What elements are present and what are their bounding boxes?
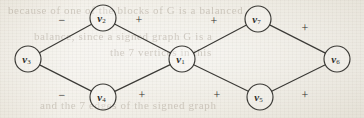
node-label-subscript: 3 — [27, 58, 31, 66]
graph-node: v5 — [247, 84, 273, 110]
graph-node: v7 — [245, 6, 271, 32]
graph-node: v6 — [324, 46, 350, 72]
graph-edge — [39, 24, 91, 53]
graph-edge — [194, 25, 247, 53]
edge-sign-label: + — [136, 13, 143, 27]
node-label-subscript: 6 — [336, 58, 340, 66]
node-label-subscript: 2 — [102, 17, 106, 25]
edge-sign-label: + — [302, 21, 309, 35]
edge-sign-label: + — [302, 88, 309, 102]
graph-node: v4 — [90, 84, 116, 110]
graph-node: v3 — [15, 46, 41, 72]
edge-sign-label: + — [214, 88, 221, 102]
graph-edge — [40, 65, 92, 91]
graph-edge — [270, 25, 326, 53]
node-label-subscript: 5 — [259, 96, 263, 104]
edge-sign-label: + — [211, 14, 218, 28]
node-label-subscript: 1 — [181, 58, 185, 66]
graph-edge — [115, 24, 171, 53]
edge-sign-label: − — [59, 13, 66, 27]
graph-edge — [272, 65, 326, 92]
edge-sign-label: − — [59, 88, 66, 102]
node-label-subscript: 4 — [102, 96, 106, 104]
graph-edge — [194, 65, 249, 92]
graph-node: v1 — [169, 46, 195, 72]
signed-graph-figure: because of one of the blocks of G is a b… — [0, 0, 364, 118]
node-label-subscript: 7 — [257, 18, 261, 26]
graph-node: v2 — [90, 5, 116, 31]
graph-canvas: v1v2v3v4v5v6v7 −−++++++ — [0, 0, 364, 118]
edge-sign-label: + — [139, 88, 146, 102]
